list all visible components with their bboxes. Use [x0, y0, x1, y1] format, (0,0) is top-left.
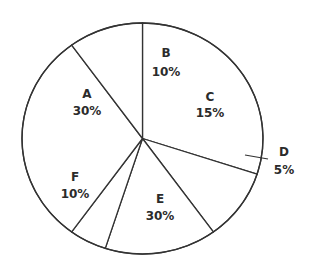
pie-chart: A 30% B 10% C 15% D 5% E 30% F 10%	[0, 0, 315, 267]
slice-label-e: E	[156, 192, 164, 206]
slice-pct-d: 5%	[274, 163, 294, 177]
slice-pct-c: 15%	[196, 106, 225, 120]
slice-label-a: A	[82, 87, 92, 101]
slice-pct-a: 30%	[73, 104, 102, 118]
pie-slices	[22, 23, 263, 254]
slice-label-f: F	[71, 170, 79, 184]
slice-label-b: B	[161, 46, 170, 60]
slice-pct-e: 30%	[146, 209, 175, 223]
slice-label-d: D	[279, 145, 289, 159]
slice-label-c: C	[206, 90, 215, 104]
slice-pct-f: 10%	[61, 187, 90, 201]
slice-pct-b: 10%	[152, 65, 181, 79]
